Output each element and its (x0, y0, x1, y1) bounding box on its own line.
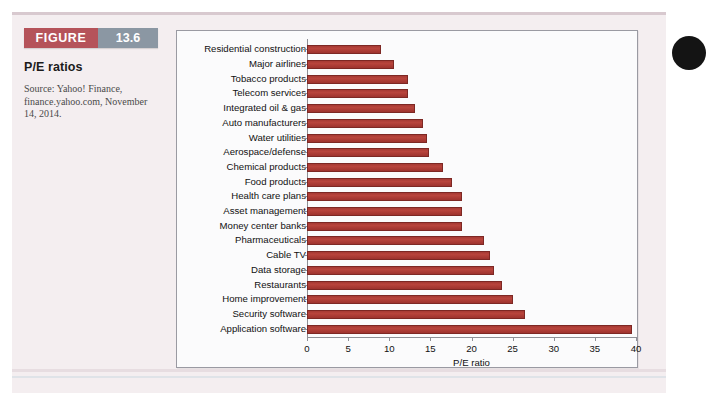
category-label: Tobacco products (231, 74, 306, 84)
figure-tag-number: 13.6 (98, 28, 158, 48)
category-label: Food products (245, 177, 306, 187)
x-axis-tick-label: 20 (466, 343, 477, 354)
bar (307, 222, 462, 231)
category-label: Security software (232, 309, 306, 319)
chart-plot-area: P/E ratio Residential constructionMajor … (177, 31, 637, 367)
bar (307, 266, 494, 275)
category-label: Health care plans (231, 191, 306, 201)
x-axis-tick (554, 337, 555, 341)
x-axis-tick-label: 35 (590, 343, 601, 354)
x-axis-tick (348, 337, 349, 341)
x-axis-tick-label: 30 (548, 343, 559, 354)
bar (307, 207, 462, 216)
bar (307, 163, 443, 172)
bar (307, 178, 452, 187)
x-axis-tick (513, 337, 514, 341)
x-axis-title: P/E ratio (307, 357, 636, 368)
x-axis-tick (472, 337, 473, 341)
category-label: Cable TV (266, 250, 306, 260)
category-label: Application software (220, 324, 306, 334)
x-axis-tick (389, 337, 390, 341)
bar (307, 104, 415, 113)
bar (307, 281, 502, 290)
category-label: Water utilities (249, 133, 306, 143)
category-label: Residential construction (204, 44, 306, 54)
category-label: Telecom services (232, 88, 306, 98)
bar (307, 251, 490, 260)
figure-tag: FIGURE 13.6 (24, 28, 158, 48)
bar (307, 89, 408, 98)
bar (307, 119, 423, 128)
category-label: Integrated oil & gas (223, 103, 306, 113)
chart-card: P/E ratio Residential constructionMajor … (176, 30, 638, 368)
figure-title: P/E ratios (24, 60, 164, 74)
category-label: Restaurants (254, 280, 306, 290)
category-label: Data storage (251, 265, 306, 275)
x-axis-tick (595, 337, 596, 341)
x-axis-tick-label: 5 (345, 343, 350, 354)
x-axis-tick (430, 337, 431, 341)
bar (307, 236, 484, 245)
bar (307, 134, 427, 143)
figure-source: Source: Yahoo! Finance, finance.yahoo.co… (24, 83, 156, 121)
x-axis-tick-label: 10 (384, 343, 395, 354)
bar (307, 325, 632, 334)
category-label: Money center banks (220, 221, 306, 231)
x-axis-tick (307, 337, 308, 341)
x-axis-tick-label: 0 (304, 343, 309, 354)
bar (307, 192, 462, 201)
page-edge-artifact (672, 36, 706, 70)
bar (307, 148, 429, 157)
category-label: Asset management (223, 206, 306, 216)
category-label: Aerospace/defense (223, 147, 306, 157)
panel-divider-bottom (12, 376, 672, 378)
figure-caption: FIGURE 13.6 P/E ratios Source: Yahoo! Fi… (24, 28, 164, 121)
bar (307, 60, 394, 69)
category-label: Pharmaceuticals (235, 235, 306, 245)
category-label: Chemical products (227, 162, 306, 172)
bar (307, 310, 525, 319)
x-axis-tick-label: 15 (425, 343, 436, 354)
panel-divider-top (12, 369, 672, 372)
category-label: Major airlines (249, 59, 306, 69)
x-axis-tick-label: 25 (507, 343, 518, 354)
bar (307, 295, 513, 304)
bar (307, 75, 408, 84)
category-label: Auto manufacturers (222, 118, 306, 128)
bar (307, 45, 381, 54)
x-axis-tick-label: 40 (631, 343, 642, 354)
x-axis-tick (636, 337, 637, 341)
category-label: Home improvement (222, 294, 306, 304)
figure-tag-word: FIGURE (24, 28, 98, 48)
